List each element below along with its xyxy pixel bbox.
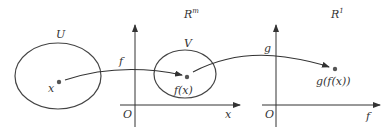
point-x-label: x (48, 82, 55, 95)
point-fx-label: f(x) (173, 84, 193, 97)
map-f-label: f (118, 55, 125, 68)
set-v-label: V (184, 37, 193, 50)
right-y-axis-label: g (264, 42, 271, 55)
right-x-axis-label: f (365, 110, 372, 123)
point-gfx (333, 67, 337, 71)
space-rm-label: Rm (183, 7, 199, 21)
map-g-arrow (193, 55, 329, 72)
point-fx (185, 75, 189, 79)
set-u-ellipse (15, 43, 101, 109)
set-u-label: U (56, 28, 66, 41)
composition-diagram: U x O x Rm V f(x) f O f g R1 g(f(x)) (0, 0, 390, 137)
map-f-arrow (65, 70, 182, 80)
right-origin-label: O (265, 108, 274, 121)
space-r1-label: R1 (330, 7, 344, 21)
middle-x-axis-label: x (225, 108, 232, 121)
point-gfx-label: g(f(x)) (316, 75, 350, 88)
point-x (57, 80, 61, 84)
middle-origin-label: O (123, 108, 132, 121)
